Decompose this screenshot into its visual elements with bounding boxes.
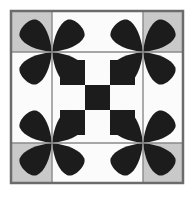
checker-cell-2-1: [85, 110, 110, 135]
checker-cell-1-1: [85, 85, 110, 110]
checker-cell-0-1: [85, 60, 110, 85]
quilt-svg: [0, 0, 194, 198]
checker-cell-1-0: [60, 85, 85, 110]
checker-cell-1-2: [110, 85, 135, 110]
quilt-artwork: [0, 0, 194, 198]
